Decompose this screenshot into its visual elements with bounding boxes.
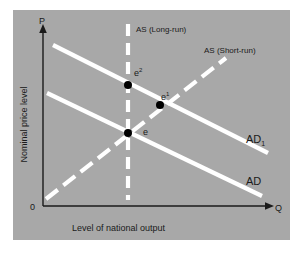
y-axis-symbol: P — [39, 17, 45, 26]
origin-label: 0 — [30, 203, 35, 212]
point-e-label-base: e — [143, 127, 148, 137]
ad-curve — [47, 93, 262, 196]
point-e2-label-superscript: 2 — [139, 67, 142, 73]
point-e2-label: e2 — [134, 67, 142, 78]
point-e1 — [156, 101, 164, 109]
ad-label-text: AD — [246, 175, 261, 187]
x-axis-title: Level of national output — [72, 224, 165, 233]
point-e1-label-superscript: 1 — [166, 91, 169, 97]
y-axis-title: Nominal price level — [20, 70, 29, 180]
as-long-run-label: AS (Long-run) — [136, 26, 186, 34]
point-e2 — [124, 81, 132, 89]
x-axis-symbol: Q — [275, 204, 282, 213]
point-e1-label: e1 — [161, 91, 169, 102]
figure-container: AS (Long-run) AS (Short-run) AD1 AD e e1… — [0, 0, 302, 255]
ad1-label: AD1 — [246, 134, 265, 147]
x-axis-arrowhead — [265, 202, 274, 210]
ad1-label-subscript: 1 — [261, 140, 265, 147]
as-short-run-curve — [46, 58, 226, 199]
point-e — [124, 129, 132, 137]
ad1-label-text: AD — [246, 133, 261, 145]
diagram-canvas — [0, 0, 302, 255]
ad-label: AD — [246, 176, 261, 187]
as-short-run-label: AS (Short-run) — [204, 47, 256, 55]
point-e-label: e — [143, 128, 148, 137]
